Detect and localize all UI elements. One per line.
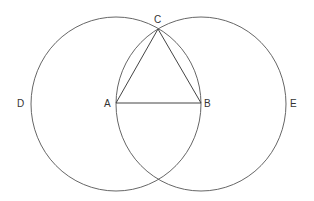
euclid-diagram: A B C D E xyxy=(0,0,314,201)
label-a: A xyxy=(104,98,111,109)
segment-ac xyxy=(116,29,158,103)
label-b: B xyxy=(204,98,211,109)
label-d: D xyxy=(17,98,24,109)
label-c: C xyxy=(154,14,161,25)
segment-bc xyxy=(158,29,201,103)
label-e: E xyxy=(290,98,297,109)
